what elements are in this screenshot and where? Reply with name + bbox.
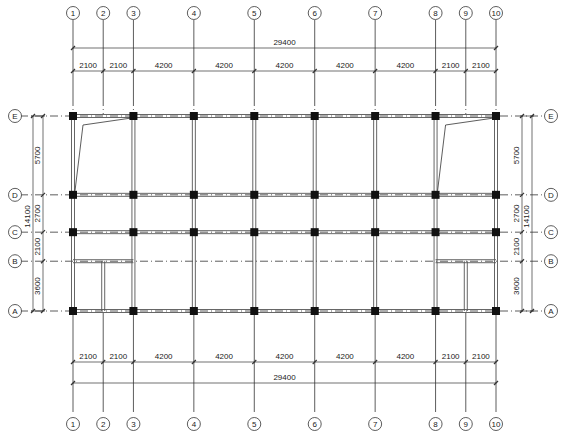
column-7-A [371, 307, 379, 315]
axis-bubble-top-4-label: 4 [192, 9, 197, 18]
column-6-C [311, 228, 319, 236]
column-3-E [129, 112, 137, 120]
column-1-A [69, 307, 77, 315]
column-7-D [371, 191, 379, 199]
dimension-total-right: 14100 [522, 205, 531, 228]
column-1-E [69, 112, 77, 120]
stair-outline-left [75, 118, 131, 191]
column-4-E [190, 112, 198, 120]
axis-bubble-top-3-label: 3 [131, 9, 136, 18]
axis-bubble-left-B-label: B [12, 257, 17, 266]
column-6-D [311, 191, 319, 199]
axis-bubble-left-A-label: A [12, 307, 18, 316]
column-6-A [311, 307, 319, 315]
column-8-A [432, 307, 440, 315]
dimension-segment-bottom: 2100 [472, 352, 490, 361]
axis-bubble-bottom-10-label: 10 [492, 420, 501, 429]
dimension-segment-left: 2700 [33, 204, 42, 222]
dimension-total-top: 29400 [273, 38, 296, 47]
axis-bubble-right-A-label: A [548, 307, 554, 316]
stair-outline-right [438, 118, 494, 191]
column-7-C [371, 228, 379, 236]
column-10-C [492, 228, 500, 236]
column-5-E [250, 112, 258, 120]
column-1-C [69, 228, 77, 236]
dimension-segment-bottom: 4200 [336, 352, 354, 361]
axis-bubble-right-C-label: C [548, 228, 554, 237]
axis-bubble-top-2-label: 2 [101, 9, 106, 18]
axis-bubble-bottom-3-label: 3 [131, 420, 136, 429]
column-4-C [190, 228, 198, 236]
column-8-E [432, 112, 440, 120]
axis-bubble-left-C-label: C [12, 228, 18, 237]
axis-bubble-bottom-4-label: 4 [192, 420, 197, 429]
column-8-C [432, 228, 440, 236]
dimension-segment-top: 4200 [396, 61, 414, 70]
axis-bubble-top-6-label: 6 [312, 9, 317, 18]
axis-bubble-right-D-label: D [548, 191, 554, 200]
dimension-segment-right: 2100 [512, 237, 521, 255]
axis-bubble-right-E-label: E [548, 112, 553, 121]
axis-bubble-right-B-label: B [548, 257, 553, 266]
dimension-segment-top: 4200 [215, 61, 233, 70]
axis-bubble-top-9-label: 9 [464, 9, 469, 18]
column-3-C [129, 228, 137, 236]
axis-bubble-top-7-label: 7 [373, 9, 378, 18]
dimension-segment-bottom: 4200 [396, 352, 414, 361]
axis-bubble-bottom-6-label: 6 [312, 420, 317, 429]
axis-bubble-top-8-label: 8 [433, 9, 438, 18]
axis-bubble-left-D-label: D [12, 191, 18, 200]
column-6-E [311, 112, 319, 120]
column-3-D [129, 191, 137, 199]
dimension-total-bottom: 29400 [273, 373, 296, 382]
dimension-segment-left: 5700 [33, 146, 42, 164]
dimension-segment-top: 2100 [109, 61, 127, 70]
dimension-segment-left: 2100 [33, 237, 42, 255]
dimension-segment-bottom: 2100 [109, 352, 127, 361]
dimension-segment-top: 2100 [79, 61, 97, 70]
dimension-segment-top: 4200 [155, 61, 173, 70]
dimension-segment-bottom: 2100 [79, 352, 97, 361]
column-10-D [492, 191, 500, 199]
dimension-segment-bottom: 2100 [442, 352, 460, 361]
axis-bubble-top-5-label: 5 [252, 9, 257, 18]
axis-bubble-bottom-9-label: 9 [464, 420, 469, 429]
column-4-A [190, 307, 198, 315]
column-5-D [250, 191, 258, 199]
dimension-segment-right: 3600 [512, 277, 521, 295]
axis-bubble-left-E-label: E [12, 112, 17, 121]
structural-floor-plan: 1122334455667788991010AABBCCDDEE29400210… [0, 0, 566, 442]
dimension-segment-left: 3600 [33, 277, 42, 295]
dimension-segment-top: 4200 [276, 61, 294, 70]
axis-bubble-bottom-2-label: 2 [101, 420, 106, 429]
column-10-E [492, 112, 500, 120]
dimension-segment-right: 2700 [512, 204, 521, 222]
column-1-D [69, 191, 77, 199]
axis-bubble-bottom-7-label: 7 [373, 420, 378, 429]
dimension-total-left: 14100 [23, 205, 32, 228]
dimension-segment-bottom: 4200 [215, 352, 233, 361]
axis-bubble-bottom-8-label: 8 [433, 420, 438, 429]
column-4-D [190, 191, 198, 199]
axis-bubble-top-1-label: 1 [71, 9, 76, 18]
column-8-D [432, 191, 440, 199]
dimension-segment-top: 2100 [442, 61, 460, 70]
dimension-segment-right: 5700 [512, 146, 521, 164]
column-5-A [250, 307, 258, 315]
column-3-A [129, 307, 137, 315]
dimension-segment-top: 4200 [336, 61, 354, 70]
dimension-segment-top: 2100 [472, 61, 490, 70]
column-10-A [492, 307, 500, 315]
axis-bubble-bottom-5-label: 5 [252, 420, 257, 429]
axis-bubble-top-10-label: 10 [492, 9, 501, 18]
column-5-C [250, 228, 258, 236]
dimension-segment-bottom: 4200 [276, 352, 294, 361]
column-7-E [371, 112, 379, 120]
axis-bubble-bottom-1-label: 1 [71, 420, 76, 429]
dimension-segment-bottom: 4200 [155, 352, 173, 361]
